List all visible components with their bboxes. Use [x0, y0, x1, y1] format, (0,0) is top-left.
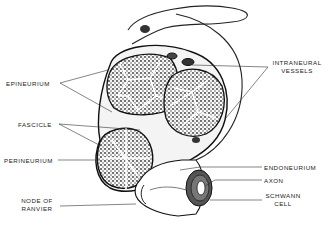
- label-perineurium: PERINEURIUM: [4, 157, 53, 165]
- nerve-diagram: EPINEURIUM INTRANEURAL VESSELS FASCICLE …: [0, 0, 326, 227]
- label-schwann-line1: SCHWANN: [258, 192, 308, 200]
- label-node-line1: NODE OF: [16, 197, 58, 205]
- label-axon: AXON: [264, 177, 284, 185]
- label-intraneural-vessels-line2: VESSELS: [268, 67, 326, 75]
- label-endoneurium: ENDONEURIUM: [264, 164, 316, 172]
- label-intraneural-vessels-line1: INTRANEURAL: [268, 59, 326, 67]
- label-fascicle: FASCICLE: [18, 121, 52, 129]
- label-node-line2: RANVIER: [16, 205, 58, 213]
- fascicle-right: [164, 69, 224, 136]
- label-epineurium: EPINEURIUM: [6, 80, 50, 88]
- label-schwann-line2: CELL: [258, 200, 308, 208]
